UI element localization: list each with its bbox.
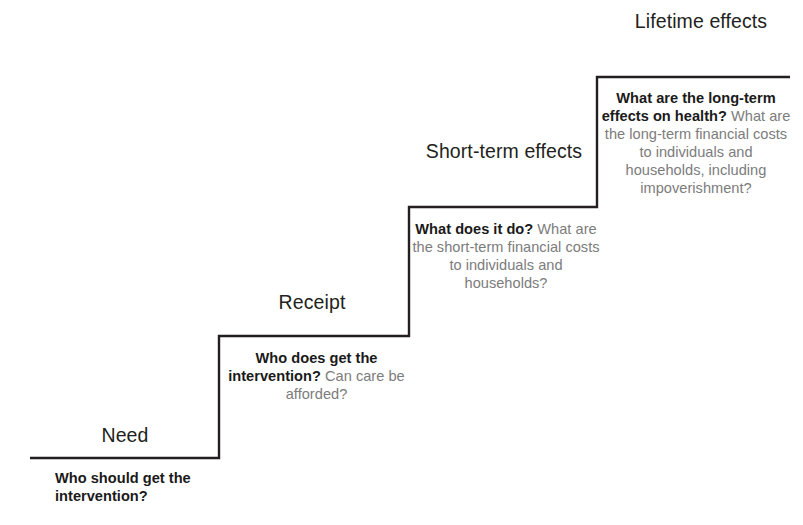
step-heading-need: Need bbox=[55, 424, 195, 447]
short-term-primary-question: What does it do? bbox=[415, 221, 533, 237]
step-body-receipt: Who does get the intervention? Can care … bbox=[224, 350, 409, 404]
step-body-lifetime: What are the long-term effects on health… bbox=[600, 90, 792, 198]
need-primary-question: Who should get the intervention? bbox=[55, 470, 191, 504]
staircase-diagram: Need Who should get the intervention? Re… bbox=[0, 0, 803, 525]
step-body-need: Who should get the intervention? bbox=[55, 470, 245, 506]
step-body-short-term: What does it do? What are the short-term… bbox=[412, 221, 600, 293]
step-heading-short-term: Short-term effects bbox=[418, 140, 590, 163]
step-heading-receipt: Receipt bbox=[237, 291, 387, 314]
step-heading-lifetime: Lifetime effects bbox=[612, 10, 790, 33]
